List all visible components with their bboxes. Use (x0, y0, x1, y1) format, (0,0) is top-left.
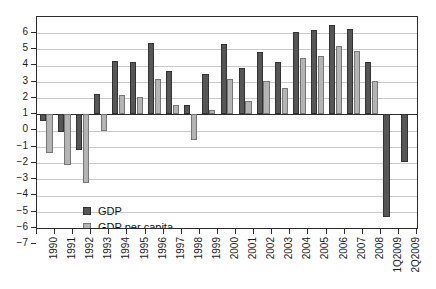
x-tick-label-2002: 2002 (266, 237, 276, 259)
x-tick-mark (289, 229, 290, 234)
x-tick-mark (271, 229, 272, 234)
y-tick-label: 5 (22, 43, 28, 53)
x-tick-label-2000: 2000 (230, 237, 240, 259)
y-tick-label: 2 (22, 92, 28, 102)
bar-gdp-per-capita-2007 (354, 51, 360, 114)
y-tick-label: −4 (17, 189, 28, 199)
legend-swatch-gdp-icon (83, 207, 91, 215)
bar-gdp-1990 (40, 114, 46, 120)
x-tick-mark (145, 229, 146, 234)
x-tick-mark (108, 229, 109, 234)
x-tick-label-1997: 1997 (176, 237, 186, 259)
bar-gdp-1994 (112, 61, 118, 115)
bar-gdp-1999 (202, 74, 208, 115)
x-tick-mark (380, 229, 381, 234)
bar-gdp-per-capita-1997 (173, 105, 179, 114)
x-tick-mark (90, 229, 91, 234)
bar-gdp-per-capita-1995 (137, 97, 143, 115)
bar-gdp-2003 (275, 62, 281, 115)
y-tick-label: −7 (17, 238, 28, 248)
y-tick-label: −1 (17, 141, 28, 151)
bar-gdp-2002 (257, 52, 263, 114)
bar-gdp-1998 (184, 105, 190, 115)
bar-gdp-2008 (365, 62, 371, 115)
x-tick-label-1992: 1992 (85, 237, 95, 259)
bar-gdp-2007 (347, 29, 353, 114)
bar-gdp-per-capita-1994 (119, 95, 125, 114)
bar-gdp-per-capita-1991 (64, 114, 70, 164)
bar-gdp-per-capita-1996 (155, 79, 161, 115)
bar-gdp-per-capita-1998 (191, 114, 197, 139)
y-tick-label: −6 (17, 222, 28, 232)
bar-gdp-1993 (94, 94, 100, 114)
x-tick-mark (235, 229, 236, 234)
x-axis: 1990199119921993199419951996199719981999… (36, 229, 418, 289)
bar-gdp-per-capita-2000 (227, 79, 233, 115)
y-tick-label: −5 (17, 206, 28, 216)
x-tick-mark (253, 229, 254, 234)
bar-gdp-2006 (329, 25, 335, 114)
x-tick-label-2Q2009: 2Q2009 (411, 237, 421, 273)
bar-gdp-per-capita-1999 (209, 110, 215, 115)
x-tick-label-1998: 1998 (194, 237, 204, 259)
x-tick-label-1Q2009: 1Q2009 (393, 237, 403, 273)
bar-gdp-2004 (293, 32, 299, 115)
bar-gdp-1991 (58, 114, 64, 132)
bar-gdp-per-capita-2003 (282, 88, 288, 114)
x-tick-label-2007: 2007 (357, 237, 367, 259)
y-tick-label: 3 (22, 76, 28, 86)
bar-gdp-per-capita-1992 (83, 114, 89, 182)
x-tick-label-1991: 1991 (67, 237, 77, 259)
y-tick-label: −3 (17, 173, 28, 183)
bar-group (37, 17, 417, 228)
x-tick-mark (72, 229, 73, 234)
plot-area: GDP GDP per capita (36, 16, 418, 229)
bar-gdp-1995 (130, 62, 136, 115)
x-tick-label-2008: 2008 (375, 237, 385, 259)
bar-gdp-1Q2009 (383, 114, 389, 217)
bar-gdp-per-capita-2008 (372, 81, 378, 114)
bar-gdp-2005 (311, 30, 317, 114)
x-tick-label-2004: 2004 (302, 237, 312, 259)
x-tick-label-1996: 1996 (158, 237, 168, 259)
bar-gdp-per-capita-2001 (245, 101, 251, 115)
x-tick-label-1999: 1999 (212, 237, 222, 259)
y-tick-label: 6 (22, 27, 28, 37)
x-tick-mark (398, 229, 399, 234)
y-tick-label: −2 (17, 157, 28, 167)
x-tick-mark (326, 229, 327, 234)
bar-gdp-1997 (166, 71, 172, 115)
x-tick-mark (54, 229, 55, 234)
legend-label-gdp-per-capita: GDP per capita (98, 222, 173, 230)
y-tick-label: 4 (22, 59, 28, 69)
bar-gdp-2000 (221, 44, 227, 115)
x-tick-mark (36, 229, 37, 234)
bar-gdp-per-capita-2004 (300, 58, 306, 115)
x-tick-mark (344, 229, 345, 234)
bar-chart: 6543210−1−2−3−4−5−6−7 GDP GDP per capita… (0, 0, 436, 289)
bar-gdp-1992 (76, 114, 82, 150)
x-tick-label-1993: 1993 (103, 237, 113, 259)
y-tick-label: 0 (22, 124, 28, 134)
x-tick-mark (163, 229, 164, 234)
bar-gdp-per-capita-2006 (336, 46, 342, 114)
x-tick-label-2001: 2001 (248, 237, 258, 259)
x-tick-mark (199, 229, 200, 234)
chart-legend: GDP GDP per capita (83, 203, 173, 229)
x-tick-label-1995: 1995 (140, 237, 150, 259)
x-tick-label-2003: 2003 (284, 237, 294, 259)
bar-gdp-1996 (148, 43, 154, 114)
y-tick-label: 1 (22, 108, 28, 118)
legend-label-gdp: GDP (98, 206, 122, 217)
legend-item-gdp-per-capita: GDP per capita (83, 219, 173, 229)
bar-gdp-per-capita-2005 (318, 56, 324, 114)
bar-gdp-2001 (239, 68, 245, 114)
x-tick-mark (307, 229, 308, 234)
x-tick-label-1994: 1994 (121, 237, 131, 259)
x-tick-mark (362, 229, 363, 234)
legend-item-gdp: GDP (83, 203, 173, 219)
x-tick-mark (416, 229, 417, 234)
bar-gdp-2Q2009 (401, 114, 407, 162)
x-tick-mark (217, 229, 218, 234)
x-tick-label-1990: 1990 (49, 237, 59, 259)
